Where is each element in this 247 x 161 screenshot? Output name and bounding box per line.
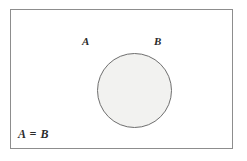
set-label-a: A: [82, 36, 89, 47]
equality-caption: A = B: [18, 128, 49, 141]
set-label-b: B: [154, 36, 161, 47]
venn-diagram-figure: A B A = B: [0, 0, 247, 161]
set-circle: [97, 53, 172, 128]
